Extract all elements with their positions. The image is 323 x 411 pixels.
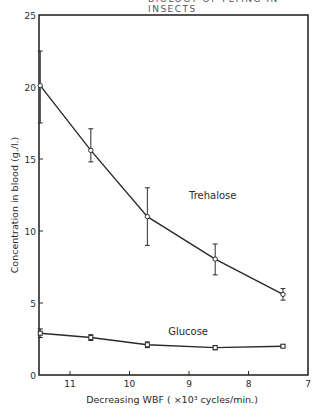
y-tick-label: 0 — [30, 371, 36, 381]
x-tick-label: 10 — [124, 379, 136, 389]
data-point — [281, 344, 285, 348]
plot-border — [39, 15, 308, 375]
x-axis-label: Decreasing WBF ( ×10³ cycles/min.) — [86, 394, 258, 405]
series-trehalose: Trehalose — [38, 51, 286, 300]
y-tick-label: 20 — [25, 83, 37, 93]
series-glucose: Glucose — [38, 326, 286, 350]
data-point — [38, 83, 42, 87]
series-label: Trehalose — [188, 190, 236, 201]
data-point — [145, 214, 149, 218]
y-tick-label: 15 — [25, 155, 36, 165]
x-axis: 1110987 — [64, 371, 311, 389]
series-line — [40, 86, 283, 295]
data-point — [38, 331, 42, 335]
x-tick-label: 9 — [186, 379, 192, 389]
x-tick-label: 11 — [64, 379, 75, 389]
y-tick-label: 5 — [30, 299, 36, 309]
data-point — [213, 346, 217, 350]
series-group: TrehaloseGlucose — [38, 51, 286, 350]
y-tick-label: 10 — [25, 227, 37, 237]
data-point — [145, 343, 149, 347]
x-tick-label: 7 — [305, 379, 311, 389]
data-point — [89, 148, 93, 152]
data-point — [281, 292, 285, 296]
series-label: Glucose — [168, 326, 208, 337]
y-axis-label: Concentration in blood (g./l.) — [9, 137, 20, 274]
data-point — [89, 336, 93, 340]
data-point — [213, 257, 217, 261]
line-chart: 0510152025 1110987 TrehaloseGlucose Conc… — [0, 0, 323, 411]
y-tick-label: 25 — [25, 11, 36, 21]
plot-frame — [39, 15, 308, 375]
series-line — [40, 333, 283, 347]
x-tick-label: 8 — [246, 379, 252, 389]
